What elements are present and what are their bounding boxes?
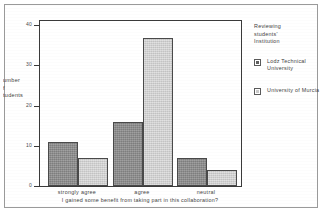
y-axis-title-line-1: umber	[3, 77, 37, 85]
figure-frame: umber f tudents 40 30 20 10 0	[4, 4, 318, 208]
y-axis-tick-label-10: 10	[26, 142, 32, 148]
legend: Reviewing students' Institution Lodz Tec…	[254, 23, 324, 109]
bar-group-neutral	[177, 21, 237, 186]
legend-title: Reviewing students' Institution	[254, 23, 316, 46]
bar-group-agree	[113, 21, 173, 186]
legend-swatch-icon-murcia	[254, 88, 261, 95]
legend-swatch-icon-lodz	[254, 59, 261, 66]
plot-area	[39, 20, 242, 187]
legend-title-line-1: Reviewing	[254, 23, 316, 31]
legend-label-lodz: Lodz Technical University	[267, 58, 323, 73]
legend-title-line-3: Institution	[254, 38, 316, 46]
y-axis-title-line-3: tudents	[3, 92, 37, 100]
bar-lodz-strongly-agree	[48, 142, 78, 186]
y-axis-tick-label-30: 30	[26, 61, 32, 67]
y-axis-title: umber f tudents	[3, 77, 37, 100]
bars-layer	[40, 21, 241, 186]
y-axis-tick-label-40: 40	[26, 21, 32, 27]
legend-label-murcia: University of Murcia	[267, 87, 323, 94]
bar-murcia-agree	[143, 38, 173, 186]
legend-title-line-2: students'	[254, 31, 316, 39]
bar-murcia-strongly-agree	[78, 158, 108, 186]
legend-item-lodz-technical-university[interactable]: Lodz Technical University	[254, 58, 324, 73]
y-axis-tick-label-0: 0	[29, 182, 32, 188]
x-axis-title: I gained some benefit from taking part i…	[25, 197, 255, 203]
x-axis-label-neutral: neutral	[146, 189, 266, 195]
bar-murcia-neutral	[207, 170, 237, 186]
y-axis-tick-label-20: 20	[26, 102, 32, 108]
legend-item-university-of-murcia[interactable]: University of Murcia	[254, 87, 324, 95]
bar-lodz-agree	[113, 122, 143, 186]
bar-lodz-neutral	[177, 158, 207, 186]
y-axis-title-line-2: f	[3, 85, 37, 93]
bar-group-strongly-agree	[48, 21, 108, 186]
